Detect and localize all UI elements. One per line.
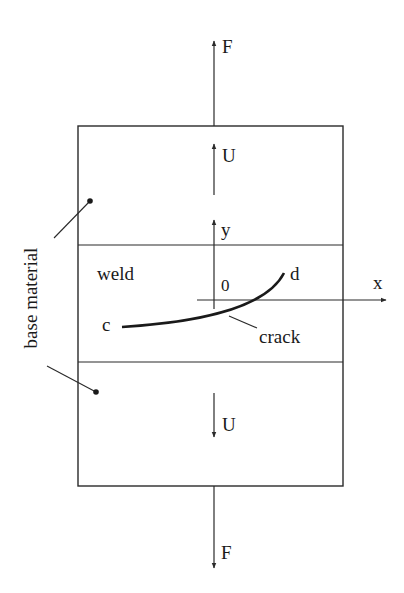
crack-label: crack (259, 326, 301, 347)
base-material-top-dot-icon (87, 198, 93, 204)
crack-leader-line (229, 316, 257, 328)
crack-end-label: d (290, 263, 300, 284)
base-material-leader-top (54, 201, 90, 238)
y-axis-label: y (221, 219, 231, 240)
displacement-top-label: U (222, 145, 236, 166)
specimen-outline (78, 126, 343, 486)
x-axis-label: x (373, 272, 383, 293)
origin-label: 0 (221, 276, 230, 295)
base-material-label: base material (20, 248, 41, 349)
displacement-bottom-label: U (222, 414, 236, 435)
weld-label: weld (97, 263, 134, 284)
force-bottom-label: F (221, 542, 232, 563)
force-top-label: F (222, 36, 233, 57)
crack-start-label: c (102, 314, 110, 335)
weld-crack-diagram: F U y x 0 weld c d crack U F base materi… (0, 0, 404, 593)
base-material-bottom-dot-icon (93, 389, 99, 395)
base-material-leader-bottom (47, 366, 96, 392)
